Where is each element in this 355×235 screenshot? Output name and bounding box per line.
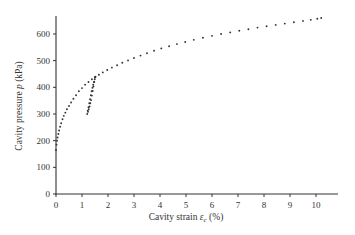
data-point [316, 18, 318, 20]
data-point [275, 24, 277, 26]
data-point [310, 19, 312, 21]
data-point [57, 133, 59, 135]
data-point [133, 57, 135, 59]
data-point [176, 43, 178, 45]
x-tick-label: 1 [80, 200, 85, 210]
y-tick-label: 100 [37, 162, 51, 172]
data-point [168, 45, 170, 47]
data-point [95, 76, 97, 78]
axes [56, 16, 339, 195]
data-point [320, 17, 322, 19]
data-point [153, 50, 155, 52]
x-tick-label: 5 [184, 200, 189, 210]
data-point [87, 110, 89, 112]
data-point [127, 59, 129, 61]
y-tick-label: 500 [37, 56, 51, 66]
data-point [91, 90, 93, 92]
data-point [160, 47, 162, 49]
data-point [88, 81, 90, 83]
data-point [284, 23, 286, 25]
data-point [58, 130, 60, 132]
x-tick-label: 7 [236, 200, 241, 210]
y-tick-label: 600 [37, 29, 51, 39]
data-point [146, 52, 148, 54]
data-point [229, 31, 231, 33]
data-point [102, 71, 104, 73]
x-ticks: 012345678910 [54, 194, 321, 210]
data-point [266, 25, 268, 27]
data-point [94, 78, 96, 80]
data-point [202, 37, 204, 39]
x-tick-label: 2 [106, 200, 111, 210]
x-tick-label: 6 [210, 200, 215, 210]
data-point [93, 81, 95, 83]
data-point [57, 137, 59, 139]
data-point [64, 112, 66, 114]
x-tick-label: 0 [54, 200, 59, 210]
data-point [88, 106, 90, 108]
data-point [302, 20, 304, 22]
data-point [55, 149, 57, 151]
data-point [62, 118, 64, 120]
x-tick-label: 8 [262, 200, 267, 210]
data-point [293, 21, 295, 23]
data-point [68, 105, 70, 107]
data-point [184, 41, 186, 43]
data-point [86, 113, 88, 115]
data-point [84, 84, 86, 86]
series-loading [55, 17, 322, 151]
data-point [56, 140, 58, 142]
y-tick-label: 0 [46, 189, 51, 199]
y-axis-label: Cavity pressure p (kPa) [14, 61, 25, 150]
data-point [59, 126, 61, 128]
data-point [89, 98, 91, 100]
data-point [257, 27, 259, 29]
pressure-strain-chart: 012345678910 0100200300400500600 Cavity … [0, 0, 355, 235]
data-point [106, 69, 108, 71]
data-point [238, 30, 240, 32]
data-point [63, 115, 65, 117]
data-point [98, 74, 100, 76]
data-point [111, 67, 113, 69]
data-point [90, 94, 92, 96]
data-point [247, 28, 249, 30]
data-point [92, 84, 94, 86]
data-point [56, 144, 58, 146]
x-tick-label: 10 [312, 200, 322, 210]
y-tick-label: 400 [37, 82, 51, 92]
data-point [91, 87, 93, 89]
data-point [78, 90, 80, 92]
data-point [193, 39, 195, 41]
data-point [88, 102, 90, 104]
data-point [140, 55, 142, 57]
data-point [60, 122, 62, 124]
data-points [55, 17, 322, 151]
data-point [66, 108, 68, 110]
x-tick-label: 4 [158, 200, 163, 210]
data-point [91, 78, 93, 80]
data-point [88, 108, 90, 110]
data-point [75, 94, 77, 96]
data-point [81, 87, 83, 89]
y-ticks: 0100200300400500600 [37, 29, 57, 199]
data-point [121, 62, 123, 64]
data-point [70, 102, 72, 104]
data-point [220, 33, 222, 35]
x-axis-label: Cavity strain εc (%) [149, 212, 224, 224]
data-point [72, 98, 74, 100]
x-tick-label: 9 [288, 200, 293, 210]
data-point [116, 64, 118, 66]
y-tick-label: 300 [37, 109, 51, 119]
data-point [211, 35, 213, 37]
x-tick-label: 3 [132, 200, 137, 210]
y-tick-label: 200 [37, 136, 51, 146]
